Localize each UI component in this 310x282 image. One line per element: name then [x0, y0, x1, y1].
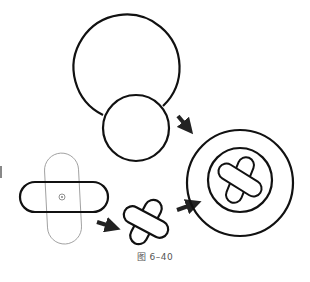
center-point-icon	[59, 194, 65, 200]
large-circle	[74, 15, 180, 115]
arrow-icon	[178, 116, 188, 128]
diagram-canvas	[0, 0, 310, 282]
horizontal-capsule	[20, 182, 108, 212]
edge-mark	[0, 166, 2, 178]
figure-caption: 图 6–40	[0, 250, 310, 263]
small-circle	[103, 95, 169, 161]
arrow-icon	[97, 222, 113, 227]
rotated-cross	[121, 197, 171, 247]
vertical-guide-capsule	[44, 152, 83, 245]
button-cross	[215, 155, 264, 205]
